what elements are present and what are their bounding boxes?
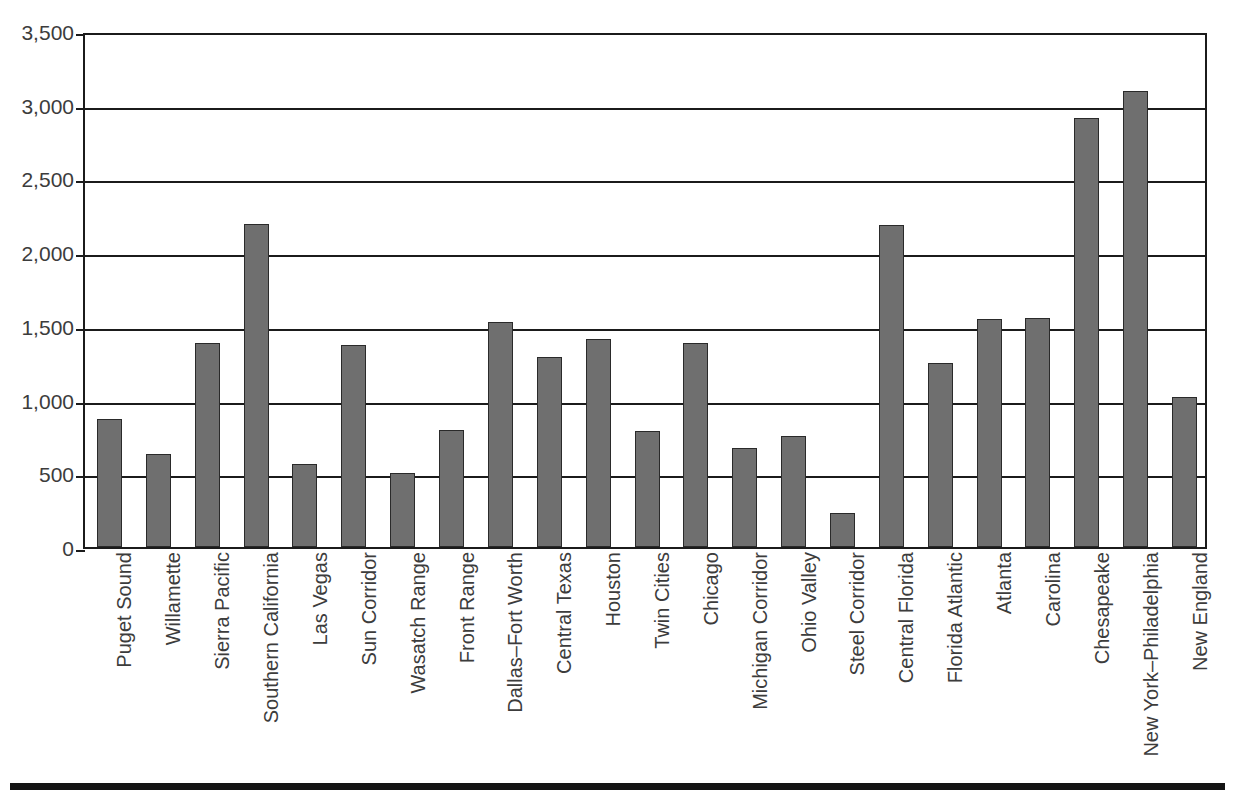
x-axis-tick-label: Wasatch Range xyxy=(401,552,421,694)
x-axis: Puget SoundWillametteSierra PacificSouth… xyxy=(83,552,1207,752)
x-axis-tick-label: Florida Atlantic xyxy=(938,552,958,683)
bar xyxy=(341,345,366,547)
x-axis-tick-label-text: Willamette xyxy=(163,552,183,645)
y-axis-tick-label: 1,500 xyxy=(6,317,74,338)
bar xyxy=(488,322,513,547)
y-axis-tick-mark xyxy=(76,329,85,331)
bar xyxy=(195,343,220,547)
x-axis-tick-label: Sierra Pacific xyxy=(205,552,225,670)
x-axis-tick-label-text: Chicago xyxy=(701,552,721,625)
plot-area xyxy=(83,33,1207,549)
x-axis-tick-label-text: Steel Corridor xyxy=(847,552,867,675)
bar xyxy=(732,448,757,548)
x-axis-tick-label-text: Florida Atlantic xyxy=(945,552,965,683)
x-axis-tick-label-text: Michigan Corridor xyxy=(750,552,770,710)
x-axis-tick-label: Steel Corridor xyxy=(840,552,860,675)
x-axis-tick-label-text: Dallas–Fort Worth xyxy=(505,552,525,713)
y-axis-tick-label: 1,000 xyxy=(6,391,74,412)
bar xyxy=(781,436,806,547)
y-axis-tick-mark xyxy=(76,403,85,405)
x-axis-tick-label-text: New England xyxy=(1190,552,1210,671)
bar xyxy=(97,419,122,547)
x-axis-tick-label: Sun Corridor xyxy=(352,552,372,665)
x-axis-tick-label-text: Chesapeake xyxy=(1092,552,1112,664)
x-axis-tick-label-text: Southern California xyxy=(261,552,281,723)
bar xyxy=(879,225,904,547)
x-axis-tick-label: Las Vegas xyxy=(303,552,323,645)
bar xyxy=(292,464,317,547)
y-axis-tick-label: 3,500 xyxy=(6,22,74,43)
bar xyxy=(928,363,953,547)
x-axis-tick-label-text: Carolina xyxy=(1043,552,1063,626)
x-axis-tick-label-text: Front Range xyxy=(457,552,477,663)
y-axis-tick-mark xyxy=(76,181,85,183)
bar xyxy=(1025,318,1050,547)
x-axis-tick-label: Central Texas xyxy=(547,552,567,674)
y-axis-tick-label: 2,000 xyxy=(6,243,74,264)
x-axis-tick-label-text: Sierra Pacific xyxy=(212,552,232,670)
x-axis-tick-label: Central Florida xyxy=(889,552,909,683)
x-axis-tick-label: Michigan Corridor xyxy=(743,552,763,710)
x-axis-tick-label: Dallas–Fort Worth xyxy=(498,552,518,713)
x-axis-tick-label-text: Puget Sound xyxy=(114,552,134,668)
y-axis-tick-mark xyxy=(76,34,85,36)
bar xyxy=(586,339,611,547)
x-axis-tick-label: Puget Sound xyxy=(107,552,127,668)
bar xyxy=(1123,91,1148,547)
x-axis-tick-label-text: Houston xyxy=(603,552,623,627)
x-axis-tick-label-text: Sun Corridor xyxy=(359,552,379,665)
x-axis-tick-label: New York–Philadelphia xyxy=(1134,552,1154,757)
x-axis-tick-label: Front Range xyxy=(450,552,470,663)
x-axis-tick-label-text: Ohio Valley xyxy=(799,552,819,653)
y-axis-tick-mark xyxy=(76,255,85,257)
bar xyxy=(683,343,708,547)
bar xyxy=(439,430,464,547)
x-axis-tick-label: New England xyxy=(1183,552,1203,671)
x-axis-tick-label-text: Atlanta xyxy=(994,552,1014,614)
y-axis-tick-mark xyxy=(76,108,85,110)
x-axis-tick-label-text: Las Vegas xyxy=(310,552,330,645)
x-axis-tick-label: Willamette xyxy=(156,552,176,645)
x-axis-tick-label-text: Wasatch Range xyxy=(408,552,428,694)
bar xyxy=(1172,397,1197,547)
bar xyxy=(1074,118,1099,547)
bar xyxy=(244,224,269,547)
bar xyxy=(635,431,660,547)
x-axis-tick-label: Ohio Valley xyxy=(792,552,812,653)
x-axis-tick-label: Chesapeake xyxy=(1085,552,1105,664)
y-axis-tick-mark xyxy=(76,476,85,478)
bar xyxy=(977,319,1002,547)
x-axis-tick-label: Southern California xyxy=(254,552,274,723)
x-axis-tick-label: Houston xyxy=(596,552,616,627)
bar xyxy=(830,513,855,547)
bar xyxy=(146,454,171,547)
bar xyxy=(537,357,562,547)
y-axis-tick-label: 0 xyxy=(6,538,74,559)
x-axis-tick-label: Chicago xyxy=(694,552,714,625)
y-axis-tick-label: 500 xyxy=(6,464,74,485)
bar xyxy=(390,473,415,547)
y-axis-tick-label: 3,000 xyxy=(6,96,74,117)
y-axis: 05001,0001,5002,0002,5003,0003,500 xyxy=(0,0,74,796)
x-axis-tick-label-text: Twin Cities xyxy=(652,552,672,649)
bar-chart-figure: 05001,0001,5002,0002,5003,0003,500 Puget… xyxy=(0,0,1235,796)
bottom-rule xyxy=(10,783,1225,790)
y-axis-tick-label: 2,500 xyxy=(6,169,74,190)
x-axis-tick-label: Twin Cities xyxy=(645,552,665,649)
bar-series xyxy=(85,35,1205,547)
x-axis-tick-label: Atlanta xyxy=(987,552,1007,614)
x-axis-tick-label-text: Central Texas xyxy=(554,552,574,674)
x-axis-tick-label: Carolina xyxy=(1036,552,1056,626)
x-axis-tick-label-text: Central Florida xyxy=(896,552,916,683)
x-axis-tick-label-text: New York–Philadelphia xyxy=(1141,552,1161,757)
